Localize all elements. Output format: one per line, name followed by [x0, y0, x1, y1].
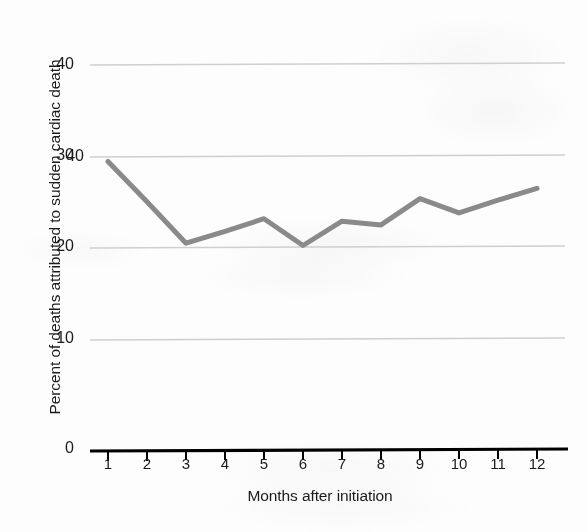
x-axis-line — [90, 449, 568, 451]
plot-area — [0, 0, 587, 532]
x-tick-label-7: 7 — [327, 455, 357, 472]
x-tick-label-9: 9 — [405, 455, 435, 472]
x-tick-label-6: 6 — [288, 455, 318, 472]
x-tick-label-11: 11 — [483, 455, 513, 472]
data-series-line — [108, 162, 537, 246]
x-tick-label-4: 4 — [210, 455, 240, 472]
x-tick-label-10: 10 — [444, 455, 474, 472]
x-tick-label-8: 8 — [366, 455, 396, 472]
gridline-10 — [90, 338, 565, 340]
x-tick-label-5: 5 — [249, 455, 279, 472]
x-tick-label-1: 1 — [93, 455, 123, 472]
line-chart-figure: 40 40 30 20 10 0 Percent of deaths attri… — [0, 0, 587, 532]
x-tick-label-2: 2 — [132, 455, 162, 472]
x-tick-label-3: 3 — [171, 455, 201, 472]
x-axis-title: Months after initiation — [90, 487, 550, 505]
gridline-30 — [90, 155, 565, 157]
gridline-20 — [90, 246, 565, 248]
gridline-40 — [90, 63, 565, 65]
x-tick-label-12: 12 — [522, 455, 552, 472]
